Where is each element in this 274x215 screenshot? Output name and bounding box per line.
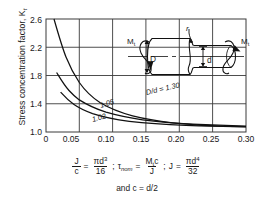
- formula-pid3-over-16: πd3 16: [92, 157, 110, 176]
- torque-label-right-text: M: [241, 37, 248, 46]
- formula-Mtc-num: Mtc: [144, 157, 161, 166]
- torque-label-right: Mt: [241, 37, 249, 46]
- formula-J-over-c: J c: [72, 157, 80, 176]
- formula-line-1: J c = πd3 16 ; τnom = Mtc J ; J = πd4 32: [0, 157, 274, 176]
- formula-equals-3: =: [176, 161, 181, 171]
- radius-label-r: r: [186, 24, 189, 33]
- formula-pid4-over-32: πd4 32: [184, 157, 202, 176]
- formula-pid3-num: πd3: [92, 157, 110, 166]
- formula-semicolon-1: ;: [112, 161, 114, 171]
- torque-label-left-text: M: [127, 37, 134, 46]
- formula-semicolon-2: ;: [163, 161, 165, 171]
- formula-c-den: c: [72, 166, 80, 176]
- torque-label-left: Mt: [127, 37, 135, 46]
- formula-equals-2: =: [136, 161, 141, 171]
- formula-32-den: 32: [186, 166, 199, 176]
- formula-16-den: 16: [94, 166, 107, 176]
- stress-concentration-chart-figure: Stress concentration factor, Kt 2.6 2.2 …: [0, 0, 274, 215]
- formula-equals-1: =: [84, 161, 89, 171]
- formula-J-num: J: [72, 157, 80, 166]
- formula-tau-nom: τnom: [118, 161, 133, 171]
- formula-Mtc-over-J: Mtc J: [144, 157, 161, 176]
- diameter-label-D: D: [150, 54, 156, 64]
- formula-J-2: J: [169, 161, 173, 171]
- diameter-label-d: d: [207, 55, 212, 65]
- formula-line-2: and c = d/2: [0, 183, 274, 193]
- formula-pid4-num: πd4: [184, 157, 202, 166]
- formula-J-den: J: [148, 166, 156, 176]
- formula-block: J c = πd3 16 ; τnom = Mtc J ; J = πd4 32: [0, 157, 274, 193]
